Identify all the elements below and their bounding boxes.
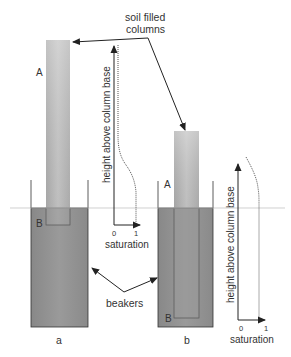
column-a-submerged xyxy=(46,208,70,225)
arrow-to-beaker-a xyxy=(92,268,124,292)
point-a-column-b: A xyxy=(164,179,171,190)
plot-b-x-label: saturation xyxy=(230,334,274,345)
plot-a-tick-1: 1 xyxy=(134,229,138,238)
arrow-to-column-b xyxy=(148,38,185,130)
arrow-to-column-a xyxy=(73,38,148,42)
soil-filled-label-line1: soil filled xyxy=(125,11,165,23)
soil-column-b xyxy=(174,131,199,318)
plot-b-y-label: height above column base xyxy=(225,186,236,303)
soil-filled-label-line2: columns xyxy=(126,23,165,35)
soil-column-diagram: soil filled columns A B A B height above… xyxy=(0,0,291,357)
plot-b-tick-0: 0 xyxy=(239,324,243,333)
plot-a-saturation-curve xyxy=(118,45,136,222)
soil-column-a xyxy=(46,40,70,225)
panel-b-label: b xyxy=(184,334,190,346)
saturation-plot-b xyxy=(238,157,265,320)
plot-a-x-label: saturation xyxy=(105,239,149,250)
plot-b-tick-1: 1 xyxy=(264,324,268,333)
point-b-column-a: B xyxy=(36,218,43,229)
point-b-column-b: B xyxy=(165,313,172,324)
beakers-pointer xyxy=(92,268,157,292)
saturation-plot-a xyxy=(114,45,140,225)
plot-a-tick-0: 0 xyxy=(112,229,116,238)
point-a-column-a: A xyxy=(36,67,43,78)
beakers-label: beakers xyxy=(106,297,143,309)
panel-a-label: a xyxy=(56,334,62,346)
plot-a-y-label: height above column base xyxy=(101,66,112,183)
soil-columns-pointer xyxy=(73,38,185,130)
column-b-submerged xyxy=(174,208,199,318)
arrow-to-beaker-b xyxy=(124,278,157,292)
plot-b-saturation-curve xyxy=(246,157,259,317)
